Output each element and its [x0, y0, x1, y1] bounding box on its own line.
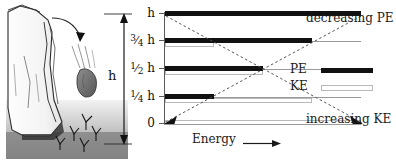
ytick-label-3-4-h: 3⁄4 h — [130, 34, 155, 46]
legend-row-ke: KE — [290, 79, 390, 96]
motion-line-1 — [72, 46, 80, 68]
x-axis-line — [164, 124, 360, 125]
height-label: h — [108, 68, 116, 83]
legend-label-ke: KE — [290, 79, 308, 93]
x-axis-label: Energy — [192, 132, 236, 146]
falling-rock — [77, 69, 97, 97]
legend-row-pe: PE — [290, 62, 390, 79]
legend-label-pe: PE — [290, 62, 307, 76]
pe-bar-1-2-h — [165, 66, 263, 71]
pe-bar-3-4-h — [165, 38, 312, 43]
ytick-label-0: 0 — [147, 117, 155, 129]
trajectory-curve — [52, 18, 80, 36]
ytick-label-1-4-h: 1⁄4 h — [130, 90, 155, 102]
trajectory-arrowhead — [76, 32, 85, 42]
x-axis-arrow-icon — [243, 139, 283, 148]
ytick-label-h: h — [147, 7, 155, 19]
height-arrowhead-up — [120, 13, 128, 23]
energy-bar-chart: h 3⁄4 h 1⁄2 h 1⁄4 h 0 — [130, 0, 396, 161]
motion-line-4 — [92, 50, 95, 68]
annotation-decreasing-pe: decreasing PE — [306, 11, 394, 25]
figure-root: h h 3⁄4 h 1⁄2 h 1⁄4 h — [0, 0, 396, 161]
chart-legend: PE KE — [290, 62, 390, 96]
pe-bar-1-4-h — [165, 94, 214, 99]
motion-line-3 — [85, 46, 90, 68]
legend-swatch-ke — [321, 85, 373, 91]
legend-swatch-pe — [321, 68, 373, 73]
height-arrowhead-down — [120, 135, 128, 145]
ytick-label-1-2-h: 1⁄2 h — [130, 62, 155, 74]
